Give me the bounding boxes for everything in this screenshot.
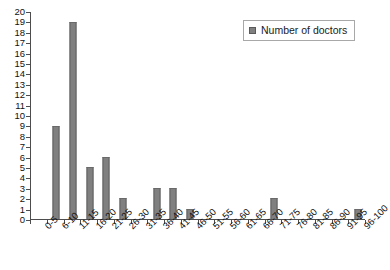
- y-tick-mark: [26, 210, 30, 211]
- y-tick-label: 9: [20, 122, 25, 132]
- y-tick-label: 6: [20, 153, 25, 163]
- bar-slot: [48, 12, 65, 219]
- bar-slot: [31, 12, 48, 219]
- y-tick-label: 20: [14, 7, 25, 17]
- bar-slot: [333, 12, 350, 219]
- y-tick-label: 17: [14, 38, 25, 48]
- y-tick-label: 13: [14, 80, 25, 90]
- y-tick-mark: [26, 189, 30, 190]
- bar-slot: [115, 12, 132, 219]
- y-tick-mark: [26, 158, 30, 159]
- y-tick-label: 10: [14, 111, 25, 121]
- y-tick-mark: [26, 74, 30, 75]
- y-tick-mark: [26, 126, 30, 127]
- y-tick-label: 3: [20, 184, 25, 194]
- bar-slot: [299, 12, 316, 219]
- bar-slot: [349, 12, 366, 219]
- y-tick-mark: [26, 33, 30, 34]
- bar: [69, 22, 76, 219]
- y-tick-mark: [26, 85, 30, 86]
- bar-slot: [316, 12, 333, 219]
- y-tick-label: 15: [14, 59, 25, 69]
- bar-slot: [81, 12, 98, 219]
- bar-slot: [232, 12, 249, 219]
- y-tick-label: 1: [20, 205, 25, 215]
- y-tick-mark: [26, 116, 30, 117]
- bar-slot: [132, 12, 149, 219]
- y-tick-mark: [26, 178, 30, 179]
- bar-slot: [199, 12, 216, 219]
- bar-slot: [65, 12, 82, 219]
- x-axis-labels: 0-56-1011-1516-2021-2526-3031-3536-4041-…: [30, 224, 365, 266]
- bar-slot: [148, 12, 165, 219]
- y-tick-label: 4: [20, 174, 25, 184]
- bar: [53, 126, 60, 219]
- y-tick-label: 7: [20, 142, 25, 152]
- bar-slot: [266, 12, 283, 219]
- y-tick-label: 0: [20, 215, 25, 225]
- y-tick-mark: [26, 106, 30, 107]
- y-tick-mark: [26, 137, 30, 138]
- y-tick-mark: [26, 168, 30, 169]
- y-tick-mark: [26, 95, 30, 96]
- y-tick-mark: [26, 147, 30, 148]
- bar-slot: [182, 12, 199, 219]
- y-tick-mark: [26, 54, 30, 55]
- y-tick-mark: [26, 64, 30, 65]
- y-tick-mark: [26, 199, 30, 200]
- y-tick-mark: [26, 22, 30, 23]
- y-tick-mark: [26, 12, 30, 13]
- y-tick-mark: [26, 43, 30, 44]
- bar-slot: [215, 12, 232, 219]
- y-tick-label: 14: [14, 70, 25, 80]
- y-tick-label: 11: [15, 101, 25, 111]
- bar-slot: [165, 12, 182, 219]
- y-tick-label: 5: [20, 163, 25, 173]
- y-tick-label: 16: [14, 49, 25, 59]
- bar-slot: [98, 12, 115, 219]
- plot-area: 01234567891011121314151617181920: [30, 12, 365, 220]
- y-tick-label: 18: [14, 28, 25, 38]
- y-tick-label: 2: [20, 194, 25, 204]
- bar-slot: [282, 12, 299, 219]
- y-tick-label: 19: [14, 18, 25, 28]
- bar-series: [31, 12, 365, 219]
- bar-slot: [249, 12, 266, 219]
- y-tick-label: 12: [14, 90, 25, 100]
- y-tick-label: 8: [20, 132, 25, 142]
